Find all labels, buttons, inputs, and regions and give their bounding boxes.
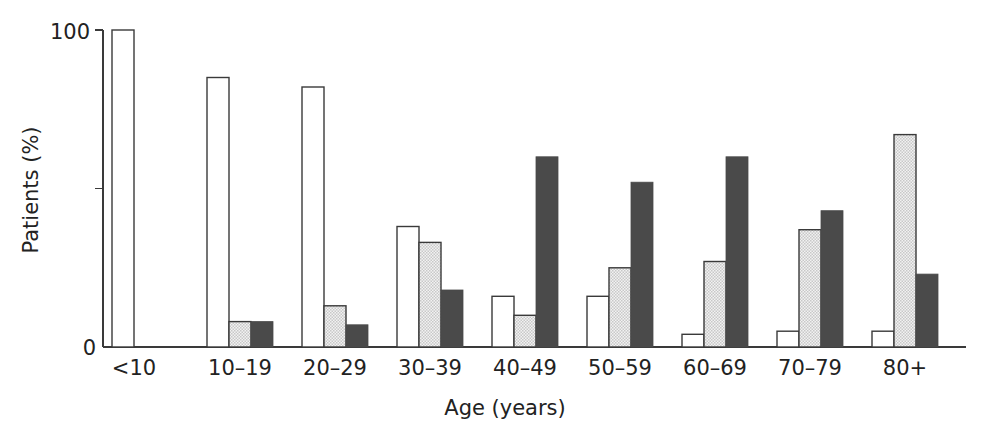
bar-open-1 <box>207 78 229 348</box>
x-axis-title: Age (years) <box>444 396 565 420</box>
chart-figure: 100 0 <10 10–19 20–29 30–39 40–49 50–59 … <box>0 0 1004 430</box>
bar-stipple-5 <box>609 268 631 347</box>
bar-open-6 <box>682 334 704 347</box>
y-tick-labels: 100 0 <box>50 20 96 360</box>
bar-solid-5 <box>631 182 653 347</box>
x-tick-labels: <10 10–19 20–29 30–39 40–49 50–59 60–69 … <box>112 356 927 380</box>
x-tick-label-2: 20–29 <box>303 356 367 380</box>
bar-stipple-7 <box>799 230 821 347</box>
bar-solid-4 <box>536 157 558 347</box>
x-tick-label-7: 70–79 <box>778 356 842 380</box>
x-tick-label-8: 80+ <box>883 356 927 380</box>
y-tick-label-100: 100 <box>50 20 90 44</box>
bar-stipple-4 <box>514 315 536 347</box>
bar-open-3 <box>397 227 419 348</box>
x-tick-label-1: 10–19 <box>208 356 272 380</box>
bar-open-7 <box>777 331 799 347</box>
bar-stipple-8 <box>894 135 916 347</box>
bar-solid-8 <box>916 274 938 347</box>
bar-open-0 <box>112 30 134 347</box>
bar-stipple-2 <box>324 306 346 347</box>
bar-solid-2 <box>346 325 368 347</box>
x-tick-label-3: 30–39 <box>398 356 462 380</box>
bar-solid-1 <box>251 322 273 347</box>
bar-solid-7 <box>821 211 843 347</box>
bar-solid-6 <box>726 157 748 347</box>
x-tick-label-0: <10 <box>112 356 156 380</box>
y-axis-title: Patients (%) <box>19 126 43 253</box>
bar-solid-3 <box>441 290 463 347</box>
bar-stipple-3 <box>419 242 441 347</box>
y-tick-label-0: 0 <box>83 336 96 360</box>
bar-open-4 <box>492 296 514 347</box>
x-tick-label-4: 40–49 <box>493 356 557 380</box>
x-tick-label-5: 50–59 <box>588 356 652 380</box>
bars-group <box>112 30 938 347</box>
bar-stipple-1 <box>229 322 251 347</box>
bar-chart-svg: 100 0 <10 10–19 20–29 30–39 40–49 50–59 … <box>0 0 1004 430</box>
bar-open-8 <box>872 331 894 347</box>
bar-stipple-6 <box>704 262 726 348</box>
bar-open-5 <box>587 296 609 347</box>
x-tick-label-6: 60–69 <box>683 356 747 380</box>
bar-open-2 <box>302 87 324 347</box>
